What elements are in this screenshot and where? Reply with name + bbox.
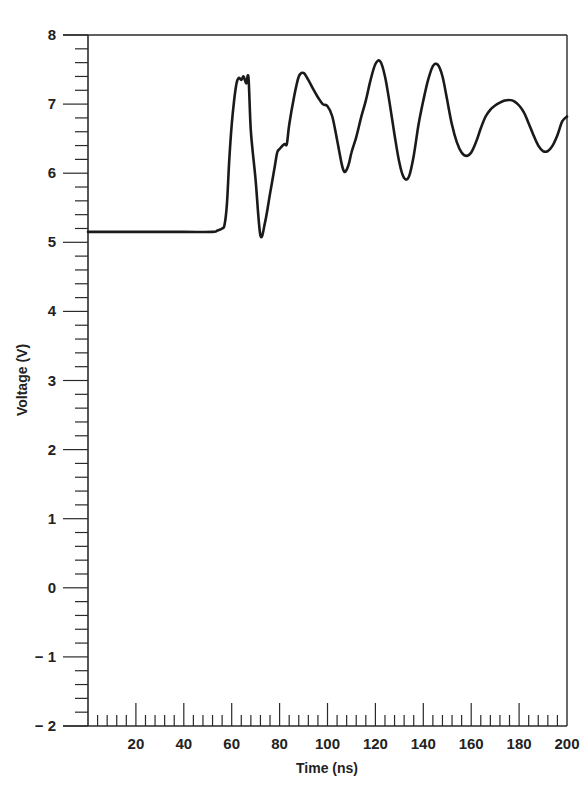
x-tick-label: 120 [363,735,388,752]
x-tick-label: 40 [175,735,192,752]
y-tick-label: − 2 [35,717,56,734]
y-axis-title: Voltage (V) [14,344,30,416]
y-tick-label: − 1 [35,648,56,665]
x-tick-label: 100 [315,735,340,752]
plot-frame [63,35,567,726]
y-tick-label: 8 [48,26,56,43]
x-tick-label: 20 [128,735,145,752]
y-tick-label: 2 [48,441,56,458]
y-tick-label: 1 [48,510,56,527]
y-axis-tick-labels: − 2− 1012345678 [35,26,57,734]
x-tick-label: 80 [271,735,288,752]
y-tick-label: 6 [48,164,56,181]
y-tick-label: 3 [48,372,56,389]
x-axis-ticks [98,703,558,726]
x-tick-label: 140 [411,735,436,752]
y-tick-label: 5 [48,233,56,250]
x-tick-label: 160 [459,735,484,752]
voltage-time-chart: − 2− 1012345678 204060801001201401601802… [0,0,588,787]
x-tick-label: 180 [507,735,532,752]
y-axis-ticks [63,35,88,726]
x-tick-label: 60 [223,735,240,752]
y-tick-label: 7 [48,95,56,112]
x-tick-label: 200 [554,735,579,752]
x-axis-title: Time (ns) [296,760,358,776]
x-axis-tick-labels: 20406080100120140160180200 [128,735,580,752]
y-tick-label: 4 [48,302,57,319]
y-tick-label: 0 [48,579,56,596]
voltage-series-line [88,60,567,237]
